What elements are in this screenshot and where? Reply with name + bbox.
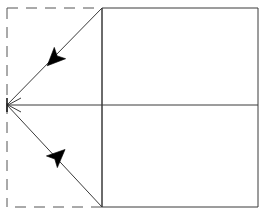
canvas-background <box>0 0 263 215</box>
diagram-canvas <box>0 0 263 215</box>
diagram-svg <box>0 0 263 215</box>
